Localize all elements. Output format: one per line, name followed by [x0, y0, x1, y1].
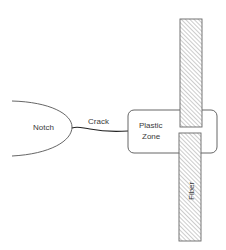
plastic-zone-label-line1: Plastic [139, 121, 163, 130]
fiber-upper-segment [180, 19, 202, 127]
notch-label: Notch [33, 123, 54, 132]
fiber-bridging-diagram: Notch Crack Plastic Zone Fiber [0, 0, 226, 250]
plastic-zone-label-line2: Zone [142, 132, 161, 141]
fiber-label: Fiber [187, 181, 196, 200]
crack-label: Crack [88, 117, 110, 126]
crack-line [72, 127, 128, 131]
